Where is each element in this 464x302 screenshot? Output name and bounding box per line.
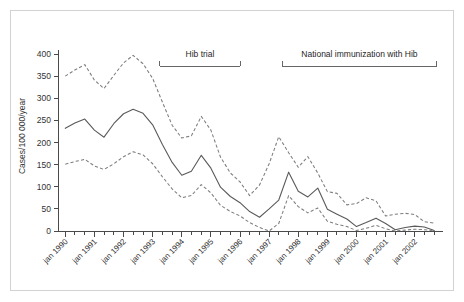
chart-series-group [65,55,434,231]
x-tick-label: jan 1993 [128,237,157,266]
x-tick-label: jan 2001 [361,237,390,266]
x-tick-label: jan 1995 [187,237,216,266]
x-tick-label: jan 2000 [332,237,361,266]
y-axis: 050100150200250300350400 [37,49,58,236]
y-axis-title: Cases/100 000/year [17,98,27,174]
incidence-line-chart: 050100150200250300350400 jan 1990jan 199… [11,11,453,290]
series-line [65,109,434,230]
x-tick-label: jan 1999 [303,237,332,266]
y-tick-label: 300 [37,93,51,103]
annotation-bracket-hib-trial [160,61,240,66]
x-tick-label: jan 1998 [274,237,303,266]
y-tick-label: 0 [46,226,51,236]
y-tick-label: 50 [42,204,52,214]
x-tick-label: jan 1996 [216,237,245,266]
x-tick-label: jan 1990 [41,237,70,266]
y-tick-label: 100 [37,182,51,192]
annotation-bracket-national-immunization [282,61,436,66]
x-tick-label: jan 1991 [70,237,99,266]
y-tick-label: 250 [37,115,51,125]
figure-frame: 050100150200250300350400 jan 1990jan 199… [10,10,454,291]
figure-root: 050100150200250300350400 jan 1990jan 199… [0,0,464,302]
series-line [65,55,434,223]
y-tick-label: 350 [37,71,51,81]
x-axis: jan 1990jan 1991jan 1992jan 1993jan 1994… [41,231,443,266]
x-tick-label: jan 1994 [157,237,186,266]
y-tick-label: 150 [37,160,51,170]
x-tick-label: jan 1992 [99,237,128,266]
y-tick-label: 200 [37,138,51,148]
annotation-label-hib-trial: Hib trial [186,49,215,59]
x-tick-label: jan 2002 [390,237,419,266]
annotation-group: Hib trialNational immunization with Hib [160,49,437,66]
x-tick-label: jan 1997 [245,237,274,266]
annotation-label-national-immunization: National immunization with Hib [301,49,417,59]
y-tick-label: 400 [37,49,51,59]
series-line [65,152,434,231]
